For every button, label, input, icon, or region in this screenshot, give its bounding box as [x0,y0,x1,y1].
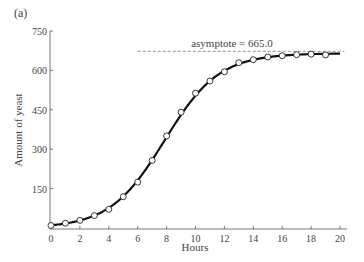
axes: 15030045060075002468101214161820 [32,26,347,244]
data-point [236,60,242,66]
data-point [308,51,314,57]
data-point [221,69,227,75]
y-axis-label-group: Amount of yeast [12,93,24,166]
y-tick-label: 600 [32,65,47,76]
y-tick-label: 300 [32,144,47,155]
data-point [294,52,300,58]
y-tick-label: 750 [32,26,47,37]
data-point [207,78,213,84]
x-tick-label: 8 [164,233,169,244]
data-point [265,54,271,60]
x-tick-label: 18 [306,233,316,244]
logistic-fit-curve [51,54,340,226]
x-tick-label: 6 [135,233,140,244]
data-point [48,222,54,228]
data-point [323,52,329,58]
x-tick-label: 12 [219,233,229,244]
chart-canvas: (a) 15030045060075002468101214161820 Amo… [0,0,364,262]
y-tick-label: 150 [32,184,47,195]
asymptote-annotation: asymptote = 665.0 [191,37,273,49]
data-point [250,57,256,63]
x-axis-label: Hours [182,241,209,253]
x-tick-label: 2 [77,233,82,244]
x-tick-label: 20 [335,233,345,244]
x-tick-label: 4 [106,233,111,244]
data-point [120,194,126,200]
panel-label: (a) [14,6,27,20]
observed-points [48,51,329,228]
data-point [77,217,83,223]
data-point [279,53,285,59]
x-tick-label: 0 [49,233,54,244]
data-point [193,90,199,96]
data-point [164,133,170,139]
data-point [62,220,68,226]
data-point [135,179,141,185]
x-tick-label: 16 [277,233,287,244]
data-point [106,206,112,212]
data-point [178,109,184,115]
data-point [91,213,97,219]
data-point [149,157,155,163]
x-tick-label: 14 [248,233,258,244]
y-axis-label: Amount of yeast [12,93,24,166]
y-tick-label: 450 [32,105,47,116]
